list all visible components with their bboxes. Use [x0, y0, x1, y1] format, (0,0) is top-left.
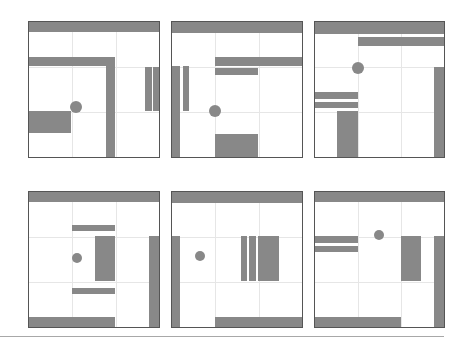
- agent-dot-icon: [352, 62, 364, 74]
- wall-block: [28, 57, 115, 66]
- wall-block: [153, 67, 160, 111]
- grid-line-vertical: [358, 192, 359, 327]
- panel-2: [171, 21, 303, 158]
- agent-dot-icon: [72, 253, 82, 263]
- wall-block: [171, 21, 303, 33]
- grid-line-vertical: [259, 22, 260, 157]
- wall-block: [314, 21, 445, 34]
- panel-5: [171, 191, 303, 328]
- wall-block: [149, 236, 160, 328]
- wall-block: [72, 288, 115, 294]
- wall-block: [314, 191, 445, 202]
- agent-dot-icon: [70, 101, 82, 113]
- wall-block: [171, 66, 180, 158]
- wall-block: [215, 317, 303, 328]
- grid-line-horizontal: [315, 67, 444, 68]
- wall-block: [249, 236, 256, 281]
- grid-line-horizontal: [29, 67, 159, 68]
- wall-block: [145, 67, 152, 111]
- wall-block: [95, 236, 115, 281]
- grid-line-horizontal: [315, 112, 444, 113]
- grid-line-horizontal: [29, 237, 159, 238]
- wall-block: [314, 236, 358, 243]
- panel-4: [28, 191, 160, 328]
- grid-line-vertical: [116, 22, 117, 157]
- grid-line-horizontal: [172, 282, 302, 283]
- wall-block: [215, 57, 303, 66]
- wall-block: [183, 66, 189, 111]
- wall-block: [28, 191, 160, 202]
- wall-block: [358, 37, 445, 46]
- panel-6: [314, 191, 445, 328]
- wall-block: [106, 57, 115, 158]
- grid-line-horizontal: [172, 112, 302, 113]
- wall-block: [434, 236, 445, 328]
- wall-block: [72, 225, 115, 231]
- panel-3: [314, 21, 445, 158]
- wall-block: [434, 67, 445, 158]
- wall-block: [337, 111, 358, 158]
- agent-dot-icon: [195, 251, 205, 261]
- wall-block: [258, 236, 279, 281]
- grid-line-vertical: [72, 22, 73, 157]
- wall-block: [314, 246, 358, 252]
- wall-block: [171, 236, 180, 328]
- wall-block: [171, 191, 303, 203]
- wall-block: [215, 134, 258, 158]
- wall-block: [241, 236, 247, 281]
- grid-line-horizontal: [172, 237, 302, 238]
- agent-dot-icon: [374, 230, 384, 240]
- wall-block: [28, 111, 71, 133]
- grid-line-horizontal: [315, 282, 444, 283]
- agent-dot-icon: [209, 105, 221, 117]
- wall-block: [28, 317, 115, 328]
- wall-block: [28, 21, 160, 32]
- wall-block: [314, 92, 358, 99]
- grid-line-vertical: [116, 192, 117, 327]
- panel-1: [28, 21, 160, 158]
- grid-line-vertical: [215, 192, 216, 327]
- grid-line-horizontal: [29, 282, 159, 283]
- wall-block: [215, 68, 258, 75]
- wall-block: [401, 236, 421, 281]
- wall-block: [314, 102, 358, 108]
- wall-block: [314, 317, 401, 328]
- bottom-divider: [0, 336, 444, 337]
